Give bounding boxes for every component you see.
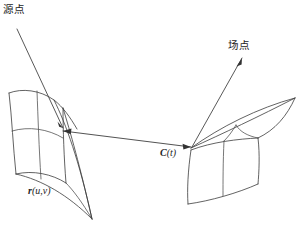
curve-vector-arguments: (t) (167, 147, 176, 158)
distance-vector-line (63, 131, 191, 147)
right-patch-top-edge (191, 138, 258, 150)
source-point-label: 源点 (3, 4, 24, 15)
right-patch-right-edge (258, 138, 259, 184)
right-surface-patch (188, 98, 295, 204)
right-patch-top-sweep-2 (191, 98, 295, 148)
left-patch-left-edge (9, 93, 16, 174)
field-point-leader-line (192, 58, 242, 147)
right-patch-grid-v (223, 141, 224, 196)
left-patch-tail-lower (16, 174, 92, 219)
left-patch-grid-u (12, 129, 63, 138)
right-patch-fold-line (236, 125, 258, 138)
left-patch-tail-inner (63, 108, 92, 219)
distance-vector-arrowhead-right (183, 144, 191, 150)
curve-vector-symbol: C (160, 147, 167, 158)
diagram-figure: 源点 场点 r(u,v) C(t) (0, 0, 301, 228)
left-patch-grid-v (37, 91, 41, 179)
curve-vector-label: C(t) (160, 148, 176, 158)
field-point-label: 场点 (228, 40, 249, 51)
field-point-arrowhead (237, 58, 243, 67)
left-patch-tail-outer (54, 100, 92, 219)
field-point-leader (192, 58, 242, 147)
source-point-leader (17, 29, 63, 128)
distance-vector-arrowhead-left (63, 129, 72, 135)
left-patch-top-edge (9, 90, 77, 129)
left-patch-right-edge (63, 108, 66, 183)
surface-vector-label: r(u,v) (28, 186, 51, 196)
surface-vector-arguments: (u,v) (32, 185, 51, 196)
source-point-leader-line (17, 29, 63, 128)
left-surface-patch (9, 90, 92, 219)
right-patch-fold-line-2 (224, 125, 236, 141)
right-patch-left-edge (188, 150, 191, 204)
